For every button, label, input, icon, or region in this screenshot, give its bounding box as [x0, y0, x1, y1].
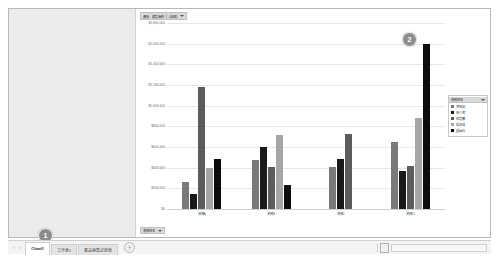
annotation-badge-2: 2: [402, 32, 417, 47]
tab-nav-buttons[interactable]: ‹ ›: [8, 245, 25, 250]
legend-item-label: 楊志成: [456, 122, 465, 127]
bar-group: 業務A: [167, 23, 237, 209]
chart-title-label: 產品 銷售金額: [143, 14, 164, 19]
legend-chevron-down-icon[interactable]: [481, 99, 485, 101]
legend-swatch-icon: [451, 105, 454, 108]
bar-groups: 業務A業務B業務C業務D: [167, 23, 445, 209]
legend-title: 業務姓名: [451, 97, 463, 102]
y-axis-tick-label: $200,000: [151, 186, 165, 190]
tab-nav-prev-icon[interactable]: ‹: [13, 245, 15, 250]
bar[interactable]: [329, 167, 336, 209]
x-axis-category-label: 業務D: [376, 211, 446, 216]
bar[interactable]: [415, 118, 422, 209]
excel-chart-sheet-window: 產品 銷售金額 (全部) $1,800,000$1,600,000$1,400,…: [0, 0, 499, 261]
gridline: [167, 209, 445, 210]
sheet-tab[interactable]: Chart1: [25, 242, 50, 255]
legend-item-label: 林嘉蓁: [456, 116, 465, 121]
bar-group: 業務D: [376, 23, 446, 209]
legend-item-label: 李怡如: [456, 104, 465, 109]
chart-filter-value: (全部): [169, 14, 177, 19]
x-axis-category-label: 業務B: [237, 211, 307, 216]
sheet-tab-bar: ‹ › Chart1工作表1產品銷售記錄表 ＋: [8, 240, 491, 254]
horizontal-scrollbar[interactable]: [377, 243, 491, 253]
x-axis-category-label: 業務A: [167, 211, 237, 216]
chip-separator: [166, 14, 167, 19]
bar-group: 業務C: [306, 23, 376, 209]
axis-chevron-down-icon[interactable]: [158, 230, 162, 232]
tab-nav-next-icon[interactable]: ›: [19, 245, 21, 250]
legend-swatch-icon: [451, 129, 454, 132]
bar[interactable]: [268, 167, 275, 209]
bar[interactable]: [407, 166, 414, 209]
y-axis-tick-label: $1,800,000: [148, 21, 165, 25]
y-axis-tick-label: $1,400,000: [148, 62, 165, 66]
bar[interactable]: [182, 182, 189, 209]
bar[interactable]: [391, 142, 398, 209]
legend-panel[interactable]: 業務姓名 李怡如林少明林嘉蓁楊志成鍾國元: [448, 95, 488, 137]
chart-sheet-canvas: 產品 銷售金額 (全部) $1,800,000$1,600,000$1,400,…: [135, 9, 490, 237]
bar[interactable]: [423, 44, 430, 209]
scroll-grip[interactable]: [380, 243, 389, 253]
sheet-tab[interactable]: 工作表1: [51, 244, 77, 255]
bar[interactable]: [260, 147, 267, 209]
y-axis-tick-label: $800,000: [151, 124, 165, 128]
chart-title-filter-chip[interactable]: 產品 銷售金額 (全部): [140, 12, 187, 20]
legend-swatch-icon: [451, 123, 454, 126]
legend-items: 李怡如林少明林嘉蓁楊志成鍾國元: [449, 103, 487, 134]
bar[interactable]: [337, 159, 344, 209]
bar[interactable]: [345, 134, 352, 209]
scroll-track[interactable]: [391, 244, 487, 252]
bar[interactable]: [190, 194, 197, 210]
chevron-down-icon[interactable]: [180, 15, 184, 17]
y-axis-tick-label: $1,600,000: [148, 42, 165, 46]
bar[interactable]: [252, 160, 259, 209]
y-axis-tick-label: $600,000: [151, 145, 165, 149]
scroll-separator: [377, 244, 378, 252]
legend-item[interactable]: 鍾國元: [449, 128, 487, 134]
bar[interactable]: [198, 87, 205, 209]
x-axis-category-label: 業務C: [306, 211, 376, 216]
left-empty-pane: [9, 9, 135, 237]
bar[interactable]: [214, 159, 221, 209]
bar-group: 業務B: [237, 23, 307, 209]
y-axis-tick-label: $400,000: [151, 166, 165, 170]
legend-swatch-icon: [451, 117, 454, 120]
y-axis-tick-label: $1,200,000: [148, 83, 165, 87]
legend-item-label: 鍾國元: [456, 128, 465, 133]
sheet-tab[interactable]: 產品銷售記錄表: [78, 244, 118, 255]
sheet-tabs: Chart1工作表1產品銷售記錄表: [25, 241, 118, 255]
y-axis-labels: $1,800,000$1,600,000$1,400,000$1,200,000…: [138, 23, 166, 209]
axis-field-label: 業務姓名: [143, 228, 155, 233]
axis-field-filter-chip[interactable]: 業務姓名: [140, 227, 165, 234]
bar[interactable]: [206, 168, 213, 209]
plot-area: $1,800,000$1,600,000$1,400,000$1,200,000…: [136, 23, 491, 223]
bar[interactable]: [399, 171, 406, 209]
bar[interactable]: [276, 135, 283, 209]
bar[interactable]: [284, 185, 291, 209]
y-axis-tick-label: $1,000,000: [148, 104, 165, 108]
legend-item-label: 林少明: [456, 110, 465, 115]
legend-swatch-icon: [451, 111, 454, 114]
y-axis-tick-label: $0: [161, 207, 165, 211]
add-sheet-button[interactable]: ＋: [124, 242, 135, 253]
